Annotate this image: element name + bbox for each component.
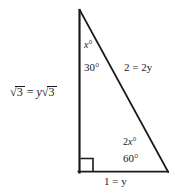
hypotenuse-label: 2 = 2y (124, 62, 152, 73)
apex-angle-measure-label: 30° (84, 62, 99, 73)
base-label: 1 = y (104, 176, 127, 187)
left-leg-equals: = (24, 85, 37, 99)
left-leg-radicand-first: 3 (16, 86, 24, 98)
left-leg-radicand-second: 3 (48, 86, 56, 98)
hypotenuse-label-text: 2 = 2y (124, 61, 152, 73)
apex-angle-variable-label: x° (84, 40, 92, 50)
apex-angle-variable-unit: ° (88, 39, 92, 50)
hypotenuse-line (80, 11, 168, 173)
left-leg-label: √3 = y√3 (10, 86, 56, 98)
left-leg-radical-second: √3 (42, 86, 56, 98)
right-angle-marker-icon (81, 159, 94, 172)
bottom-right-angle-measure-label: 60° (123, 153, 138, 164)
geometry-diagram: x° 30° 2 = 2y √3 = y√3 2x° 60° 1 = y (0, 0, 175, 195)
left-leg-radical-first: √3 (10, 86, 24, 98)
bottom-right-angle-unit: ° (132, 136, 136, 147)
bottom-right-angle-variable-label: 2x° (123, 137, 136, 147)
